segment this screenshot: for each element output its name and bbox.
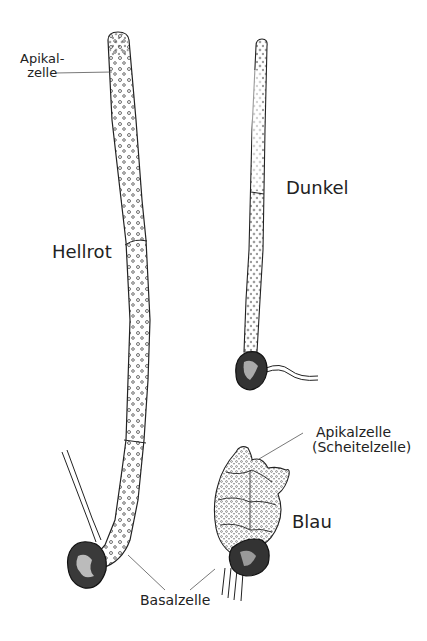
apikalzelle-label-blau: Apikalzelle (Scheitelzelle) (312, 425, 411, 456)
basalzelle-label: Basalzelle (140, 593, 210, 608)
diagram-canvas (0, 0, 427, 641)
label-line: (Scheitelzelle) (312, 440, 411, 455)
blau-cell-body (214, 447, 289, 601)
label-line: zelle (20, 66, 64, 80)
dunkel-filament (236, 39, 318, 390)
blau-label: Blau (292, 512, 332, 532)
apikalzelle-label-hellrot: Apikal- zelle (20, 52, 64, 81)
hellrot-label: Hellrot (52, 242, 112, 262)
label-line: Apikal- (20, 52, 64, 66)
hellrot-filament (62, 32, 150, 588)
dunkel-label: Dunkel (286, 178, 349, 198)
label-line: Apikalzelle (312, 425, 411, 440)
